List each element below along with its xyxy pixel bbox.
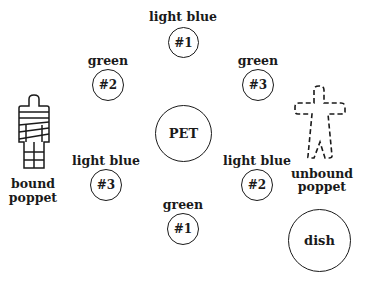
candle-green-1: #1 — [167, 213, 199, 245]
candle-lightblue-1-label: light blue — [149, 10, 217, 23]
candle-number: #2 — [248, 178, 266, 192]
candle-number: #1 — [174, 36, 192, 50]
candle-green-3: #3 — [242, 69, 274, 101]
pet-circle: PET — [155, 105, 212, 162]
unbound-poppet-label-line2: poppet — [298, 180, 346, 193]
bound-poppet-label-line2: poppet — [9, 191, 57, 204]
candle-lightblue-1: #1 — [168, 27, 199, 58]
candle-lightblue-2: #2 — [241, 169, 273, 201]
candle-green-3-label: green — [238, 54, 278, 67]
candle-number: #1 — [174, 222, 192, 236]
dish-circle: dish — [288, 209, 351, 272]
candle-green-1-label: green — [163, 198, 203, 211]
candle-number: #2 — [99, 78, 117, 92]
candle-number: #3 — [249, 78, 267, 92]
candle-lightblue-3: #3 — [90, 169, 122, 201]
candle-number: #3 — [97, 178, 115, 192]
bound-poppet-icon — [16, 94, 54, 170]
candle-lightblue-2-label: light blue — [223, 154, 291, 167]
unbound-poppet-icon — [292, 84, 352, 160]
candle-lightblue-3-label: light blue — [72, 154, 140, 167]
pet-label: PET — [169, 126, 198, 141]
candle-green-2: #2 — [92, 69, 124, 101]
candle-green-2-label: green — [88, 54, 128, 67]
bound-poppet-label-line1: bound — [11, 177, 55, 190]
dish-label: dish — [304, 233, 335, 248]
